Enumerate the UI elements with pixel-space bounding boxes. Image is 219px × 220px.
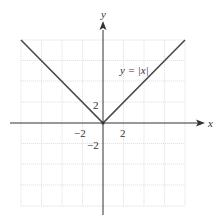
y-tick-2: 2: [93, 99, 99, 111]
origin-point: [101, 121, 104, 124]
curve-label: y = |x|: [119, 64, 149, 76]
y-axis-arrow-icon: [100, 21, 107, 30]
x-tick-2: 2: [120, 127, 126, 139]
y-tick-neg2: −2: [87, 139, 99, 151]
x-axis-label: x: [207, 117, 213, 129]
x-tick-neg2: −2: [74, 127, 86, 139]
graph: x y y = |x| −2 2 2 −2: [0, 0, 219, 220]
y-axis-label: y: [100, 8, 106, 20]
